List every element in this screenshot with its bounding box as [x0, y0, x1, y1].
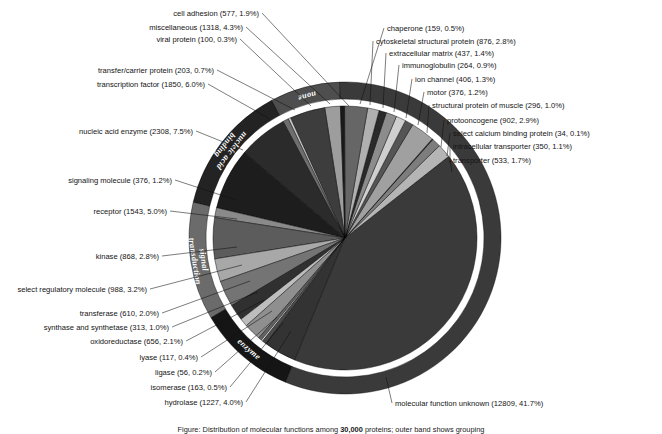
molecular-function-pie-chart: nucleic acidbindingnonesignaltransductio… — [0, 0, 662, 434]
slice-callout-label: miscellaneous (1318, 4.3%) — [149, 23, 243, 32]
slice-callout-label: transfer/carrier protein (203, 0.7%) — [98, 66, 215, 75]
slice-callout-label: intracellular transporter (350, 1.1%) — [453, 142, 572, 151]
slice-callout-label: structural protein of muscle (296, 1.0%) — [432, 101, 565, 110]
slice-callout-label: kinase (868, 2.8%) — [96, 252, 160, 261]
slice-callout-label: extracellular matrix (437, 1.4%) — [389, 49, 495, 58]
pie-slices-group — [213, 106, 477, 370]
leader-line — [246, 27, 330, 104]
slice-callout-label: receptor (1543, 5.0%) — [94, 207, 168, 216]
caption-pre: Figure: Distribution of molecular functi… — [178, 425, 339, 434]
slice-callout-label: molecular function unknown (12809, 41.7%… — [395, 399, 544, 408]
slice-callout-label: cytoskeletal structural protein (876, 2.… — [376, 37, 516, 46]
leader-line — [240, 39, 311, 106]
slice-callout-label: cell adhesion (577, 1.9%) — [173, 9, 259, 18]
slice-callout-label: hydrolase (1227, 4.0%) — [164, 398, 243, 407]
slice-callout-label: transporter (533, 1.7%) — [453, 156, 532, 165]
slice-callout-label: chaperone (159, 0.5%) — [387, 24, 465, 33]
slice-callout-label: transcription factor (1850, 6.0%) — [97, 80, 206, 89]
slice-callout-label: select calcium binding protein (34, 0.1%… — [453, 129, 590, 138]
slice-callout-label: transferase (610, 2.0%) — [80, 309, 160, 318]
slice-callout-label: viral protein (100, 0.3%) — [156, 35, 237, 44]
slice-callout-label: protooncogene (902, 2.9%) — [447, 116, 540, 125]
figure-caption: Figure: Distribution of molecular functi… — [0, 424, 662, 434]
slice-callout-label: lyase (117, 0.4%) — [139, 353, 198, 362]
leader-line — [208, 84, 270, 119]
caption-post: proteins; outer band shows grouping — [365, 425, 485, 434]
leader-line — [217, 70, 295, 110]
slice-callout-label: oxidoreductase (656, 2.1%) — [90, 337, 183, 346]
slice-callout-label: isomerase (163, 0.5%) — [151, 383, 228, 392]
slice-callout-label: immunoglobulin (264, 0.9%) — [402, 61, 497, 70]
slice-callout-label: motor (376, 1.2%) — [427, 88, 488, 97]
slice-callout-label: signaling molecule (376, 1.2%) — [68, 176, 172, 185]
slice-callout-label: ion channel (406, 1.3%) — [415, 75, 496, 84]
slice-callout-label: nucleic acid enzyme (2308, 7.5%) — [79, 127, 193, 136]
slice-callout-label: select regulatory molecule (988, 3.2%) — [17, 285, 147, 294]
slice-callout-label: synthase and synthetase (313, 1.0%) — [44, 323, 170, 332]
slice-callout-label: ligase (56, 0.2%) — [155, 368, 212, 377]
pie-chart-figure: nucleic acidbindingnonesignaltransductio… — [0, 0, 662, 434]
caption-bold: 30,000 — [340, 425, 363, 434]
